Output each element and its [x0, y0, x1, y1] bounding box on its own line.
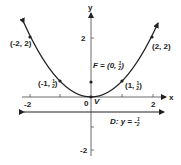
y-tick-label-neg2: -2	[80, 146, 88, 155]
parabola-diagram: x y -2 2 2 -2 0 V D: y = -12 (-2, 2) (-1…	[0, 0, 181, 165]
focus-point	[89, 80, 92, 83]
vertex-label: V	[94, 97, 100, 106]
point-neg1-half	[58, 79, 61, 82]
focus-label: F = (0, 12)	[93, 60, 124, 71]
x-axis-label: x	[169, 93, 174, 102]
point-1-half	[120, 79, 123, 82]
y-axis-label: y	[88, 3, 93, 12]
y-tick-label-2: 2	[81, 34, 86, 43]
x-tick-label-neg2: -2	[24, 100, 32, 109]
origin-label: 0	[84, 99, 89, 108]
label-neg2-2: (-2, 2)	[10, 39, 32, 48]
vertex-point	[90, 96, 93, 99]
label-1-half: (1, 12)	[125, 80, 142, 91]
label-neg1-half: (-1, 12)	[38, 78, 58, 89]
directrix-label: D: y = -12	[110, 116, 140, 127]
point-2-2	[150, 35, 153, 38]
x-tick-label-2: 2	[151, 100, 156, 109]
label-2-2: (2, 2)	[152, 42, 171, 51]
